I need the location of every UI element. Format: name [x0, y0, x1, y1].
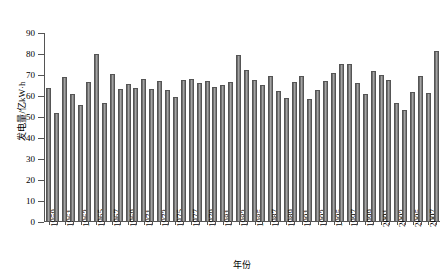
- y-axis-tick: 40: [38, 138, 44, 139]
- y-axis-tick-label: 30: [26, 153, 35, 166]
- bar-slot: 1975: [172, 33, 180, 221]
- x-axis-tick: [262, 221, 263, 225]
- bar: [315, 90, 320, 221]
- bar-slot: 1967: [108, 33, 116, 221]
- bar: [355, 83, 360, 221]
- x-axis-tick: [357, 221, 358, 225]
- y-axis-tick-label: 70: [26, 69, 35, 82]
- bar-slot: [69, 33, 77, 221]
- bar: [110, 74, 115, 221]
- bar: [402, 110, 407, 221]
- bar-slot: [353, 33, 361, 221]
- bar-slot: [258, 33, 266, 221]
- bar-slot: [290, 33, 298, 221]
- x-axis-tick: [373, 221, 374, 225]
- bar: [339, 64, 344, 222]
- bar: [307, 99, 312, 221]
- x-axis-tick: [436, 221, 437, 225]
- bar-slot: 1959: [45, 33, 53, 221]
- bar-slot: 1985: [251, 33, 259, 221]
- bar: [165, 90, 170, 221]
- bar-slot: [179, 33, 187, 221]
- bar: [299, 76, 304, 221]
- x-axis-tick: [247, 221, 248, 225]
- bar-slot: 1983: [235, 33, 243, 221]
- x-axis-tick: [421, 221, 422, 225]
- bar-slot: [227, 33, 235, 221]
- x-axis-tick: [278, 221, 279, 225]
- bar-slot: [100, 33, 108, 221]
- bar-slot: 2007: [425, 33, 433, 221]
- bar: [197, 83, 202, 221]
- bar: [323, 81, 328, 221]
- bar: [118, 89, 123, 221]
- bar-slot: [432, 33, 440, 221]
- y-axis-tick-label: 90: [26, 27, 35, 40]
- bar: [126, 84, 131, 221]
- y-axis-tick: 50: [38, 117, 44, 118]
- y-axis-tick-label: 10: [26, 195, 35, 208]
- bar: [244, 70, 249, 221]
- y-axis-tick-label: 80: [26, 48, 35, 61]
- plot-area: 0102030405060708090 19591961196319651967…: [44, 33, 440, 222]
- bar: [394, 103, 399, 221]
- bar: [268, 76, 273, 221]
- bar-slot: [274, 33, 282, 221]
- y-axis-tick-label: 60: [26, 90, 35, 103]
- bar-slot: 2003: [393, 33, 401, 221]
- y-axis-tick-label: 50: [26, 111, 35, 124]
- bar-slot: [116, 33, 124, 221]
- y-axis-tick-label: 40: [26, 132, 35, 145]
- y-axis-tick-label: 0: [31, 216, 36, 229]
- x-axis-tick: [199, 221, 200, 225]
- bar: [62, 77, 67, 221]
- bar-slot: 1997: [345, 33, 353, 221]
- bar-slot: 1977: [187, 33, 195, 221]
- bar: [292, 82, 297, 221]
- x-axis-tick: [231, 221, 232, 225]
- bar: [331, 73, 336, 221]
- bar: [260, 85, 265, 222]
- bar-slot: 1995: [330, 33, 338, 221]
- x-axis-tick: [389, 221, 390, 225]
- x-axis-tick: [294, 221, 295, 225]
- bar: [434, 51, 439, 221]
- x-axis-tick: [120, 221, 121, 225]
- bar-slot: 1999: [361, 33, 369, 221]
- x-axis-tick: [168, 221, 169, 225]
- bar-slot: 1965: [92, 33, 100, 221]
- bar: [173, 97, 178, 221]
- y-axis-tick: 0: [38, 222, 44, 223]
- bar-slot: 1993: [314, 33, 322, 221]
- bar: [205, 81, 210, 221]
- bar-slot: [164, 33, 172, 221]
- bar: [371, 71, 376, 221]
- bar: [284, 98, 289, 221]
- bar: [102, 103, 107, 221]
- bar-slot: 2001: [377, 33, 385, 221]
- bar-slot: 1973: [156, 33, 164, 221]
- bar-slot: 1979: [203, 33, 211, 221]
- bar-slot: [148, 33, 156, 221]
- bar: [141, 79, 146, 221]
- bar-slot: 1991: [298, 33, 306, 221]
- x-axis-tick: [73, 221, 74, 225]
- bar-slot: [385, 33, 393, 221]
- bar-slot: 1963: [77, 33, 85, 221]
- y-axis-tick: 80: [38, 54, 44, 55]
- x-axis-tick: [215, 221, 216, 225]
- y-axis-tick: 60: [38, 96, 44, 97]
- y-axis-tick: 20: [38, 180, 44, 181]
- x-axis-tick: [405, 221, 406, 225]
- bar: [149, 89, 154, 221]
- bar: [252, 80, 257, 221]
- y-axis-tick: 70: [38, 75, 44, 76]
- bar-slot: [417, 33, 425, 221]
- bar-slot: [132, 33, 140, 221]
- bar: [347, 64, 352, 221]
- bar: [228, 82, 233, 221]
- bar-slot: [401, 33, 409, 221]
- y-axis-tick: 30: [38, 159, 44, 160]
- x-axis-tick: [326, 221, 327, 225]
- bar-slot: [243, 33, 251, 221]
